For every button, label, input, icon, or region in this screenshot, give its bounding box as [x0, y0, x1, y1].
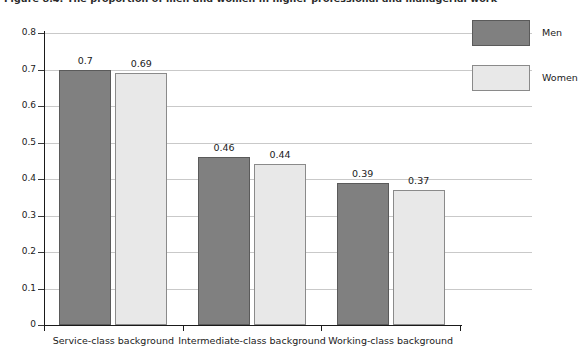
y-tick-label: 0.2: [0, 247, 36, 256]
bar-women-2: [254, 164, 306, 325]
x-tick-mark: [44, 325, 45, 331]
bar-women-1: [115, 73, 167, 325]
bar-value-label: 0.69: [111, 59, 171, 69]
legend-item-men: Men: [472, 20, 562, 46]
bar-value-label: 0.7: [55, 56, 115, 66]
bar-women-3: [393, 190, 445, 325]
bar-men-2: [198, 157, 250, 325]
y-tick-label: 0.3: [0, 211, 36, 220]
bar-chart: 00.10.20.30.40.50.60.70.8 0.70.690.460.4…: [0, 0, 586, 358]
x-category-label: Working-class background: [301, 336, 481, 346]
x-tick-mark: [183, 325, 184, 331]
legend-label: Women: [542, 73, 578, 83]
legend-label: Men: [542, 28, 562, 38]
y-tick-label: 0.5: [0, 138, 36, 147]
gridline: [44, 70, 532, 71]
y-tick-label: 0: [0, 320, 36, 329]
y-tick-label: 0.1: [0, 284, 36, 293]
x-tick-mark: [460, 325, 461, 331]
bar-men-3: [337, 183, 389, 325]
bar-value-label: 0.39: [333, 169, 393, 179]
bar-value-label: 0.44: [250, 150, 310, 160]
y-tick-label: 0.4: [0, 174, 36, 183]
bar-value-label: 0.46: [194, 143, 254, 153]
y-tick-label: 0.6: [0, 101, 36, 110]
legend-swatch-men: [472, 20, 530, 46]
legend-item-women: Women: [472, 65, 578, 91]
gridline: [44, 33, 532, 34]
bar-value-label: 0.37: [389, 176, 449, 186]
y-tick-label: 0.8: [0, 28, 36, 37]
legend-swatch-women: [472, 65, 530, 91]
y-axis-line: [44, 31, 45, 327]
x-tick-mark: [321, 325, 322, 331]
bar-men-1: [59, 70, 111, 326]
y-tick-label: 0.7: [0, 65, 36, 74]
x-axis-line: [44, 325, 462, 326]
